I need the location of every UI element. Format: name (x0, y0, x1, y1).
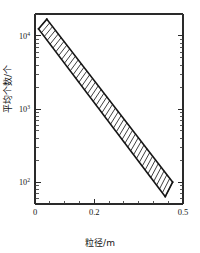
x-tick-label-4: 0.2 (89, 207, 100, 217)
x-tick-label-10: 0.5 (178, 207, 189, 217)
x-axis-title-text: 粒径/m (85, 238, 115, 248)
chart-background (0, 0, 200, 253)
x-tick-label-0: 0 (33, 207, 37, 217)
x-axis-title: 粒径/m (0, 232, 200, 250)
semilog-chart: 00.20.5 102103104 (0, 0, 200, 253)
chart-figure: 00.20.5 102103104 平均个数/个 粒径/m (0, 0, 200, 253)
